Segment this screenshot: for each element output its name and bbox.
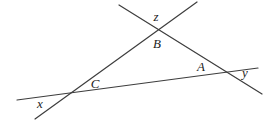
label-exterior-angle-z: z	[153, 10, 158, 23]
line-through-B-and-A	[119, 5, 262, 94]
label-exterior-angle-x: x	[37, 97, 43, 110]
label-interior-angle-C: C	[91, 77, 100, 90]
line-through-C-and-A	[17, 68, 258, 100]
geometry-diagram: A B C x y z	[0, 0, 268, 125]
line-through-C-and-B	[35, 2, 197, 119]
label-interior-angle-A: A	[197, 60, 205, 73]
label-interior-angle-B: B	[153, 37, 161, 50]
label-exterior-angle-y: y	[242, 66, 248, 79]
